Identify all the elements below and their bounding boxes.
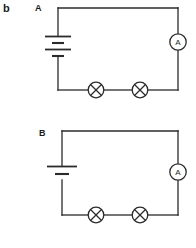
circuit-b: A [47, 131, 186, 223]
ammeter-symbol: A [175, 168, 181, 177]
circuit-figure: b A B [0, 0, 196, 248]
circuit-b-lamp-1 [88, 207, 104, 223]
circuit-b-ammeter: A [170, 164, 186, 180]
circuit-a-lamp-1 [88, 82, 104, 98]
circuit-a-ammeter: A [170, 34, 186, 50]
ammeter-symbol: A [175, 38, 181, 47]
circuit-a-lamp-2 [132, 82, 148, 98]
circuit-b-lamp-2 [132, 207, 148, 223]
circuit-a: A [45, 8, 186, 98]
circuit-a-battery [45, 37, 71, 57]
circuit-b-battery [47, 167, 77, 175]
circuit-drawing-canvas: A [0, 0, 196, 248]
